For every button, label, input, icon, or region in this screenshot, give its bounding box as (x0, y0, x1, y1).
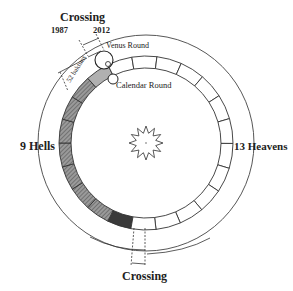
baktuns-label: 52 baktuns (65, 54, 88, 84)
bottom-crossing-dimension (90, 228, 210, 266)
heaven-cell (218, 143, 233, 168)
hell-cell (59, 119, 74, 143)
year-end-label: 2012 (93, 25, 110, 35)
hell-cell (59, 143, 74, 167)
venus-round-label: Venus Round (106, 41, 149, 50)
heaven-cell (218, 119, 233, 144)
sun-star-icon (129, 126, 163, 160)
heavens-label: 13 Heavens (234, 140, 288, 152)
year-start-label: 1987 (51, 25, 69, 35)
heaven-cell (131, 217, 156, 230)
heaven-cell (155, 212, 181, 230)
calendar-cycle-diagram: Crossing 1987 2012 Venus Round Calendar … (0, 0, 293, 291)
bottom-crossing-label: Crossing (122, 269, 167, 283)
calendar-round-label: Calendar Round (116, 80, 172, 90)
heaven-cell (132, 56, 157, 69)
venus-round-marker (95, 51, 113, 69)
top-crossing-label: Crossing (60, 10, 105, 24)
hells-label: 9 Hells (20, 139, 55, 153)
